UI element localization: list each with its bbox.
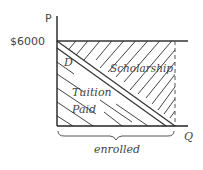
y-axis-label: P — [45, 12, 52, 25]
paid-label: Paid — [71, 103, 96, 116]
tuition-scholarship-diagram: P $6000 D Scholarship Tuition Paid Q enr… — [0, 0, 203, 170]
scholarship-label: Scholarship — [110, 62, 173, 74]
tuition-label: Tuition — [72, 86, 112, 99]
x-axis-label: Q — [184, 130, 193, 143]
enrolled-brace — [58, 131, 174, 140]
demand-label: D — [63, 56, 73, 69]
enrolled-label: enrolled — [94, 143, 140, 156]
price-label: $6000 — [10, 35, 45, 48]
